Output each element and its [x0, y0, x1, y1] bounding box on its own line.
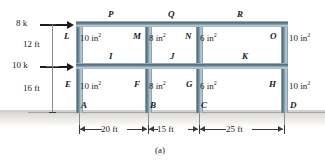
area-label-upper-right-column: 10 in2: [289, 32, 310, 43]
area-value: 8 in: [149, 33, 163, 43]
area-label-upper-bay1: 10 in2: [80, 32, 101, 43]
area-value: 10 in: [289, 81, 307, 91]
hdim-arrow-bay2-left: [149, 126, 154, 132]
story-height-upper-label: 12 ft: [23, 40, 40, 49]
area-exponent: 2: [163, 80, 166, 86]
area-label-lower-bay2: 8 in2: [149, 80, 166, 91]
vdim-tick-bottom: [49, 112, 56, 113]
figure-canvas: 8 k 10 k 12 ft 16 ft P Q R L M N O 10 in…: [0, 0, 325, 162]
load-arrow-head-middle: [67, 63, 74, 71]
area-label-lower-bay3: 6 in2: [200, 80, 217, 91]
hdim-arrow-bay1-right: [142, 126, 147, 132]
column-O-H-upper: [281, 21, 288, 67]
area-label-upper-bay2: 8 in2: [149, 32, 166, 43]
area-label-lower-right-column: 10 in2: [289, 80, 310, 91]
vdim-tick-top: [49, 24, 56, 25]
node-label-H: H: [269, 80, 276, 89]
figure-caption: (a): [155, 146, 165, 155]
area-value: 8 in: [149, 81, 163, 91]
node-label-L: L: [64, 32, 70, 41]
hdim-arrow-bay3-left: [200, 126, 205, 132]
bay-width-2-label: 15 ft: [157, 125, 174, 134]
story-height-lower-label: 16 ft: [23, 84, 40, 93]
node-label-D: D: [290, 101, 297, 110]
node-label-J: J: [170, 52, 175, 61]
area-value: 10 in: [289, 33, 307, 43]
hdim-tick-D: [284, 125, 285, 134]
node-label-M: M: [133, 32, 141, 41]
node-label-Q: Q: [168, 10, 175, 19]
area-exponent: 2: [98, 32, 101, 38]
area-exponent: 2: [307, 80, 310, 86]
area-exponent: 2: [214, 80, 217, 86]
node-label-B: B: [150, 101, 156, 110]
area-exponent: 2: [307, 32, 310, 38]
node-label-P: P: [108, 10, 114, 19]
node-label-K: K: [242, 52, 248, 61]
load-label-top: 8 k: [16, 19, 27, 28]
bay-width-1-label: 20 ft: [101, 125, 118, 134]
column-N-G-upper: [196, 21, 203, 67]
area-exponent: 2: [98, 80, 101, 86]
load-label-middle: 10 k: [12, 61, 28, 70]
hdim-arrow-bay1-left: [80, 126, 85, 132]
area-value: 6 in: [200, 81, 214, 91]
node-label-A: A: [81, 101, 87, 110]
beam-top-P-Q-R: [76, 21, 288, 27]
vdim-tick-middle: [46, 66, 59, 67]
beam-mid-I-J-K: [76, 63, 288, 69]
node-label-N: N: [185, 32, 192, 41]
area-exponent: 2: [214, 32, 217, 38]
load-arrow-head-top: [67, 21, 74, 29]
area-label-lower-bay1: 10 in2: [80, 80, 101, 91]
node-label-E: E: [65, 80, 71, 89]
column-M-F-upper: [145, 21, 152, 67]
vertical-dimension-line: [52, 24, 53, 113]
area-value: 6 in: [200, 33, 214, 43]
area-value: 10 in: [80, 81, 98, 91]
hdim-arrow-bay2-right: [193, 126, 198, 132]
area-exponent: 2: [163, 32, 166, 38]
hdim-arrow-bay3-right: [278, 126, 283, 132]
area-value: 10 in: [80, 33, 98, 43]
node-label-I: I: [109, 52, 113, 61]
column-H-D-lower: [281, 63, 288, 113]
area-label-upper-bay3: 6 in2: [200, 32, 217, 43]
node-label-C: C: [201, 101, 207, 110]
node-label-R: R: [237, 10, 243, 19]
node-label-G: G: [186, 80, 193, 89]
node-label-F: F: [134, 80, 140, 89]
node-label-O: O: [270, 32, 277, 41]
bay-width-3-label: 25 ft: [226, 125, 243, 134]
column-L-E-upper: [76, 21, 83, 67]
